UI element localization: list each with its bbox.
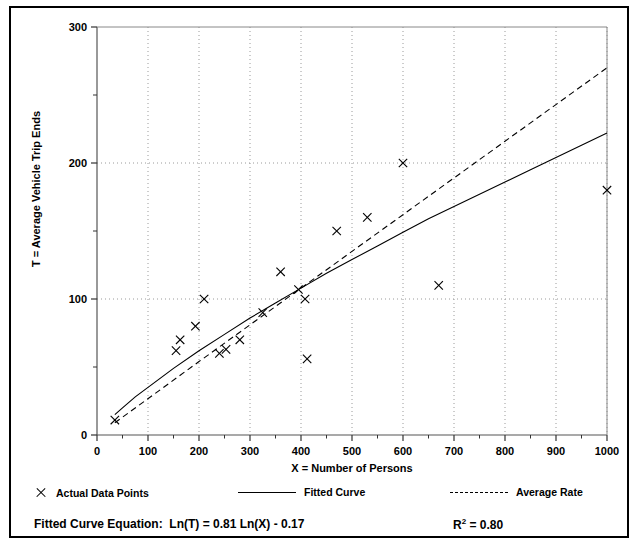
x-tick-label: 100: [139, 445, 157, 457]
legend-item-actual-data-points: Actual Data Points: [34, 486, 149, 500]
r-squared-annotation: R2 = 0.80: [453, 517, 503, 532]
solid-line-icon: [238, 492, 296, 493]
r-squared-exponent: 2: [462, 517, 466, 526]
y-axis-title: T = Average Vehicle Trip Ends: [30, 89, 42, 289]
x-tick-label: 900: [547, 445, 565, 457]
x-tick-label: 1000: [595, 445, 619, 457]
legend-label-actual-data-points: Actual Data Points: [56, 487, 149, 499]
chart-annotations: Fitted Curve Equation: Ln(T) = 0.81 Ln(X…: [20, 517, 622, 539]
x-tick-label: 0: [94, 445, 100, 457]
average-rate-line: [115, 68, 607, 423]
legend-item-average-rate: Average Rate: [450, 486, 583, 498]
legend-label-average-rate: Average Rate: [516, 486, 583, 498]
y-tick-label: 0: [81, 429, 87, 441]
chart-legend: Actual Data Points Fitted Curve Average …: [20, 486, 622, 508]
x-tick-label: 300: [241, 445, 259, 457]
y-tick-label: 100: [69, 293, 87, 305]
x-tick-label: 800: [496, 445, 514, 457]
r-squared-label: R: [453, 518, 462, 532]
x-tick-label: 500: [343, 445, 361, 457]
equation-value: Ln(T) = 0.81 Ln(X) - 0.17: [169, 517, 304, 531]
y-tick-label: 300: [69, 21, 87, 33]
x-marker-icon: [34, 486, 48, 500]
x-tick-label: 200: [190, 445, 208, 457]
x-tick-label: 700: [445, 445, 463, 457]
fitted-curve-equation: Fitted Curve Equation: Ln(T) = 0.81 Ln(X…: [34, 517, 304, 531]
chart-figure: 0100200300400500600700800900100001002003…: [0, 0, 642, 549]
fitted-curve-line: [115, 133, 607, 415]
data-points-group: [111, 159, 612, 424]
dashed-line-icon: [450, 492, 508, 493]
legend-item-fitted-curve: Fitted Curve: [238, 486, 365, 498]
x-tick-label: 400: [292, 445, 310, 457]
r-squared-value: = 0.80: [469, 518, 503, 532]
x-tick-label: 600: [394, 445, 412, 457]
y-tick-label: 200: [69, 157, 87, 169]
legend-label-fitted-curve: Fitted Curve: [304, 486, 365, 498]
x-axis-title: X = Number of Persons: [97, 462, 607, 474]
equation-label: Fitted Curve Equation:: [34, 517, 163, 531]
